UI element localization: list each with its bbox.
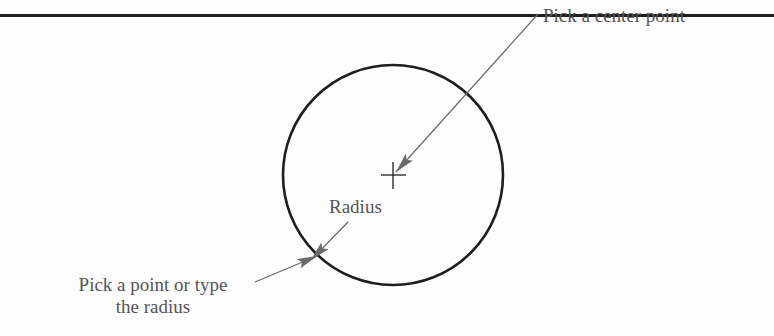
pick-point-label-line2: the radius — [49, 296, 257, 318]
center-point-label: Pick a center point — [543, 5, 685, 27]
pick-point-leader-arrow — [255, 256, 317, 282]
pick-point-label-line1: Pick a point or type — [49, 274, 257, 296]
pick-point-label: Pick a point or type the radius — [49, 274, 257, 318]
radius-label: Radius — [329, 196, 382, 218]
center-leader-arrow — [396, 14, 538, 172]
center-point-icon — [381, 162, 406, 189]
radius-leader-arrow — [311, 222, 348, 260]
